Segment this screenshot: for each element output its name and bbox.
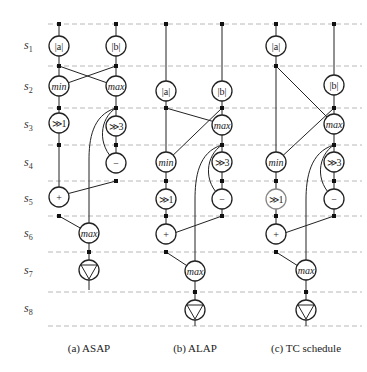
node-subtract: − — [212, 189, 232, 209]
svg-text:|b|: |b| — [329, 80, 338, 91]
svg-text:max: max — [81, 228, 98, 239]
stage-label-s2: s2 — [24, 79, 33, 95]
panel-alap: |a| |b| max min ≫3 ≫1 − + max (b) ALAP — [156, 22, 232, 355]
node-max: max — [324, 114, 344, 134]
stage-separators — [48, 24, 362, 326]
svg-text:|a|: |a| — [272, 41, 280, 52]
stage-label-s6: s6 — [24, 226, 33, 242]
node-min: min — [156, 152, 176, 172]
stage-label-s7: s7 — [24, 263, 33, 279]
caption-alap: (b) ALAP — [173, 342, 217, 355]
svg-text:+: + — [56, 192, 62, 203]
svg-text:≫1: ≫1 — [159, 194, 174, 205]
stage-label-s1: s1 — [24, 38, 33, 54]
svg-text:≫3: ≫3 — [327, 157, 342, 168]
output-triangle-icon — [296, 300, 316, 320]
svg-text:|b|: |b| — [111, 41, 120, 52]
stage-label-s3: s3 — [24, 117, 33, 133]
svg-text:−: − — [331, 194, 337, 205]
node-max-final: max — [296, 260, 316, 280]
schedule-diagram: s1 s2 s3 s4 s5 s6 s7 s8 |a| |b| min — [0, 0, 367, 372]
output-triangle-icon — [79, 260, 99, 280]
stage-label-s5: s5 — [24, 191, 33, 207]
node-shift-right-1: ≫1 — [266, 189, 286, 209]
svg-text:+: + — [273, 229, 279, 240]
stage-label-s8: s8 — [24, 301, 33, 317]
panel-asap: |a| |b| min max ≫1 ≫3 − + max (a) ASAP — [49, 22, 126, 355]
node-abs-b: |b| — [212, 81, 232, 101]
node-max-final: max — [79, 223, 99, 243]
node-shift-right-3: ≫3 — [324, 152, 344, 172]
node-max: max — [106, 76, 126, 96]
node-shift-right-1: ≫1 — [156, 189, 176, 209]
node-abs-a: |a| — [156, 81, 176, 101]
node-min: min — [49, 76, 69, 96]
node-add: + — [156, 224, 176, 244]
node-abs-b: |b| — [324, 75, 344, 95]
svg-text:max: max — [214, 120, 231, 131]
stage-labels: s1 s2 s3 s4 s5 s6 s7 s8 — [24, 38, 33, 317]
node-shift-right-3: ≫3 — [212, 152, 232, 172]
svg-text:−: − — [219, 194, 225, 205]
svg-text:≫3: ≫3 — [215, 157, 230, 168]
svg-text:max: max — [187, 266, 204, 277]
svg-text:min: min — [159, 157, 174, 168]
node-shift-right-1: ≫1 — [49, 113, 69, 133]
svg-text:max: max — [108, 81, 125, 92]
output-triangle-icon — [185, 300, 205, 320]
node-max: max — [212, 115, 232, 135]
node-subtract: − — [324, 189, 344, 209]
svg-text:+: + — [163, 229, 169, 240]
svg-text:max: max — [298, 265, 315, 276]
node-shift-right-3: ≫3 — [106, 116, 126, 136]
svg-text:min: min — [52, 81, 67, 92]
node-abs-a: |a| — [49, 36, 69, 56]
node-min: min — [266, 152, 286, 172]
panel-tc-schedule: |a| |b| max min ≫3 ≫1 − + max (c) TC sch… — [266, 22, 344, 355]
node-add: + — [266, 224, 286, 244]
svg-text:min: min — [269, 157, 284, 168]
svg-text:max: max — [326, 119, 343, 130]
svg-text:−: − — [113, 158, 119, 169]
svg-text:≫1: ≫1 — [52, 118, 67, 129]
svg-text:≫3: ≫3 — [109, 121, 124, 132]
node-subtract: − — [106, 153, 126, 173]
svg-text:|b|: |b| — [217, 86, 226, 97]
svg-text:|a|: |a| — [162, 86, 170, 97]
node-add: + — [49, 187, 69, 207]
svg-text:|a|: |a| — [55, 41, 63, 52]
node-abs-b: |b| — [106, 36, 126, 56]
caption-tc-schedule: (c) TC schedule — [271, 342, 341, 355]
caption-asap: (a) ASAP — [68, 342, 110, 355]
svg-text:≫1: ≫1 — [269, 194, 284, 205]
stage-label-s4: s4 — [24, 155, 33, 171]
node-max-final: max — [185, 261, 205, 281]
node-abs-a: |a| — [266, 36, 286, 56]
